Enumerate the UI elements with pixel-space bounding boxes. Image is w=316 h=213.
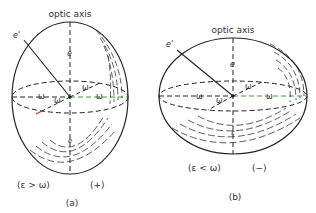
center-point-b — [231, 94, 234, 97]
omega-label-1-b: ω — [196, 92, 203, 101]
red-accent-a — [36, 111, 42, 114]
shading-bottom-a — [30, 116, 116, 162]
omega-label-4-a: ω — [96, 92, 103, 101]
sign-label-b: (−) — [252, 163, 267, 173]
ray-e-prime-a — [24, 40, 70, 97]
sign-label-a: (+) — [90, 180, 105, 190]
omega-label-1-a: ω — [38, 92, 45, 101]
optic-axis-label-a: optic axis — [48, 9, 91, 19]
indicatrix-diagram: optic axis e' e e ω ω ω ω (ε > ω) (+) (a… — [0, 0, 316, 213]
lower-axis-symbol-a: e — [68, 137, 72, 145]
condition-label-b: (ε < ω) — [188, 163, 221, 173]
axis-symbol-a: e — [67, 49, 72, 58]
omega-label-2-a: ω — [54, 96, 61, 105]
condition-label-a: (ε > ω) — [17, 180, 50, 190]
ray-label-b: e' — [166, 40, 173, 49]
ray-label-a: e' — [13, 31, 20, 40]
caption-a: (a) — [66, 198, 79, 208]
omega-label-3-a: ω — [82, 83, 89, 92]
center-point-a — [68, 95, 71, 98]
panel-b: optic axis e' e ε ω ω ω ω (ε < ω) (−) (b… — [159, 25, 307, 202]
omega-label-2-b: ω — [216, 96, 223, 105]
lower-axis-symbol-b: ε — [231, 129, 235, 137]
shading-right-b — [270, 44, 304, 102]
omega-label-3-b: ω — [245, 82, 252, 91]
caption-b: (b) — [229, 192, 242, 202]
panel-a: optic axis e' e e ω ω ω ω (ε > ω) (+) (a… — [12, 9, 128, 208]
ray-e-prime-b — [177, 50, 233, 96]
omega-label-4-b: ω — [266, 92, 273, 101]
optic-axis-label-b: optic axis — [211, 25, 254, 35]
shading-bottom-b — [172, 108, 300, 143]
axis-symbol-b: e — [230, 60, 235, 69]
